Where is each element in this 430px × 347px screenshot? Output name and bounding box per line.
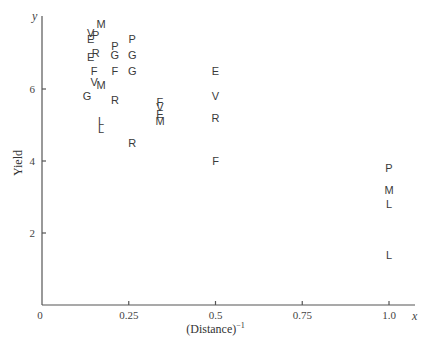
x-tick-label: 0.25 [119, 309, 139, 321]
data-point-p: P [385, 162, 392, 174]
y-axis-variable-label: y [31, 9, 38, 23]
data-point-r: R [212, 112, 220, 124]
data-point-v: V [212, 90, 220, 102]
data-point-g: G [128, 49, 137, 61]
data-point-e: E [87, 33, 94, 45]
x-axis-title-superscript: −1 [236, 321, 245, 330]
data-point-g: G [128, 65, 137, 77]
data-point-e: E [212, 65, 219, 77]
x-axis-title-text: (Distance) [186, 322, 236, 336]
x-tick-label: 0 [37, 309, 43, 321]
data-point-l: L [386, 249, 392, 261]
data-point-g: G [111, 49, 120, 61]
y-axis-ticks: 246 [30, 83, 47, 239]
data-point-m: M [384, 184, 393, 196]
data-point-r: R [111, 94, 119, 106]
data-point-p: P [129, 33, 136, 45]
data-point-r: R [128, 137, 136, 149]
x-axis-title: (Distance)−1 [186, 321, 245, 336]
x-tick-label: 1.0 [382, 309, 396, 321]
scatter-chart: y x 00.250.50.751.0 246 (Distance)−1 Yie… [0, 0, 430, 347]
y-tick-label: 4 [30, 155, 36, 167]
y-tick-label: 2 [30, 227, 36, 239]
data-points: MVPEPPERGGFFGVMGRFVEMLLREVRFPMLL [83, 18, 394, 260]
x-tick-label: 0.5 [209, 309, 223, 321]
data-point-l: L [386, 198, 392, 210]
data-point-f: F [212, 155, 219, 167]
y-axis-title: Yield [11, 150, 25, 176]
data-point-f: F [112, 65, 119, 77]
x-axis-ticks: 00.250.50.751.0 [37, 301, 396, 321]
data-point-g: G [83, 90, 92, 102]
data-point-l: L [98, 123, 104, 135]
data-point-m: M [155, 115, 164, 127]
data-point-m: M [96, 79, 105, 91]
data-point-r: R [92, 47, 100, 59]
x-tick-label: 0.75 [293, 309, 313, 321]
y-tick-label: 6 [30, 83, 36, 95]
x-axis-variable-label: x [411, 309, 418, 323]
